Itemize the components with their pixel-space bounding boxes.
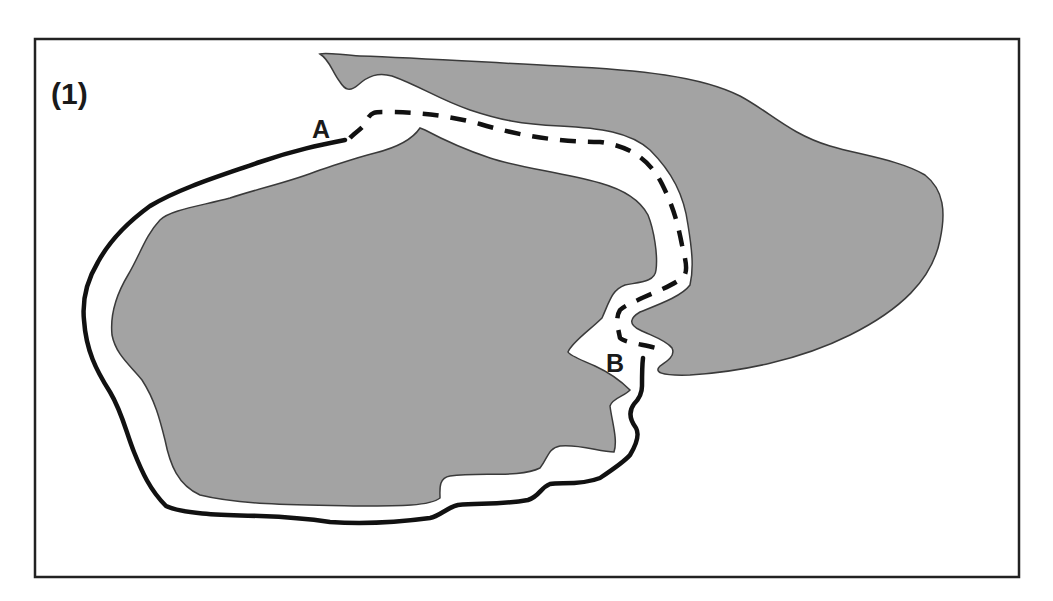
- diagram-figure: (1) A B: [0, 0, 1053, 601]
- panel-label: (1): [51, 77, 88, 110]
- point-label-b: B: [606, 349, 624, 377]
- point-label-a: A: [312, 115, 330, 143]
